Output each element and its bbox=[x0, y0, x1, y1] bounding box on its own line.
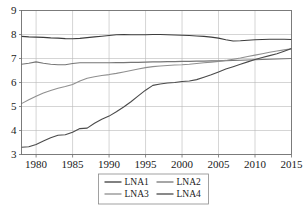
x-tick-label: 2000 bbox=[171, 158, 194, 170]
series-line-lna4 bbox=[22, 48, 292, 147]
y-tick-label: 9 bbox=[11, 4, 17, 16]
x-tick-label: 1990 bbox=[98, 158, 121, 170]
legend-label-lna3: LNA3 bbox=[125, 189, 150, 199]
y-tick-label: 8 bbox=[11, 28, 17, 40]
y-tick-label: 4 bbox=[11, 124, 17, 136]
y-axis-ticks: 3456789 bbox=[11, 4, 22, 160]
y-tick-label: 3 bbox=[11, 148, 17, 160]
x-tick-label: 1995 bbox=[135, 158, 158, 170]
y-tick-label: 6 bbox=[11, 76, 17, 88]
series-line-lna3 bbox=[22, 49, 292, 104]
x-tick-label: 1980 bbox=[25, 158, 48, 170]
chart-svg: 3456789 19801985199019952000200520102015… bbox=[0, 0, 307, 210]
x-tick-label: 2005 bbox=[208, 158, 231, 170]
y-tick-label: 7 bbox=[11, 52, 17, 64]
y-tick-label: 5 bbox=[11, 100, 17, 112]
legend-label-lna4: LNA4 bbox=[177, 189, 202, 199]
chart-legend: LNA1LNA2LNA3LNA4 bbox=[99, 174, 209, 204]
series-line-lna2 bbox=[22, 59, 292, 65]
x-tick-label: 2010 bbox=[244, 158, 267, 170]
series-line-lna1 bbox=[22, 35, 292, 41]
gridlines bbox=[22, 11, 292, 155]
x-axis-ticks: 19801985199019952000200520102015 bbox=[25, 155, 303, 171]
x-tick-label: 1985 bbox=[62, 158, 85, 170]
legend-label-lna1: LNA1 bbox=[125, 177, 150, 187]
line-chart: 3456789 19801985199019952000200520102015… bbox=[0, 0, 307, 210]
legend-label-lna2: LNA2 bbox=[177, 177, 202, 187]
x-tick-label: 2015 bbox=[281, 158, 304, 170]
